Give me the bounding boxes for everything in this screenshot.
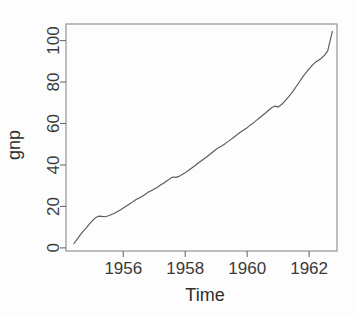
x-tick-label-1956: 1956 (104, 259, 142, 278)
y-tick-label-80: 80 (44, 73, 63, 92)
x-tick-label-1960: 1960 (228, 259, 266, 278)
y-tick-label-20: 20 (44, 197, 63, 216)
x-tick-label-1962: 1962 (290, 259, 328, 278)
y-tick-label-100: 100 (44, 26, 63, 54)
y-tick-label-60: 60 (44, 114, 63, 133)
x-tick-label-1958: 1958 (166, 259, 204, 278)
y-axis-title: gnp (4, 130, 24, 160)
x-axis-title: Time (185, 285, 224, 305)
y-tick-label-40: 40 (44, 156, 63, 175)
figure-container: series gnp (q) 54-62 020406080100 195619… (0, 0, 356, 317)
gnp-time-series-chart: series gnp (q) 54-62 020406080100 195619… (0, 0, 356, 317)
y-tick-label-0: 0 (44, 243, 63, 252)
